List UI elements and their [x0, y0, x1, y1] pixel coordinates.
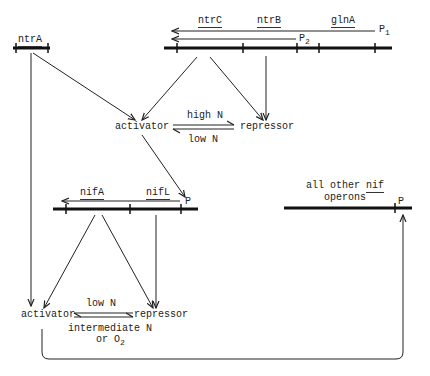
- nif-low-N-condition-label: low N: [86, 299, 116, 309]
- high-N-condition-label: high N: [187, 111, 223, 121]
- P1-subscript: 1: [385, 28, 390, 37]
- other-nif-line2: operons: [324, 193, 366, 203]
- glnA-ntrBC-dna-segment: [164, 43, 392, 53]
- ntrA-gene-label: ntrA: [18, 35, 42, 47]
- other-nif-operons-dna-segment: [284, 203, 412, 213]
- nifA-gene-label: nifA: [80, 188, 104, 200]
- nif-activator-label: activator: [21, 310, 75, 320]
- ntrA-to-ntr-activator-arrow: [33, 53, 135, 120]
- P1-promoter-label: P1: [379, 25, 390, 35]
- P2-subscript: 2: [305, 37, 310, 46]
- nifLA-dna-segment: [53, 204, 198, 214]
- ntr-repressor-label: repressor: [240, 122, 294, 132]
- oxygen-condition-label: or O2: [96, 335, 125, 345]
- intermediate-N-condition-label: intermediate N: [68, 324, 152, 334]
- other-nif-promoter-label: P: [398, 197, 404, 207]
- P2-promoter-label: P2: [299, 34, 310, 44]
- nif-ntr-regulation-diagram: ntrA ntrC ntrB glnA P1 P2 activator repr…: [0, 0, 430, 376]
- ntrB-gene-label: ntrB: [257, 16, 281, 28]
- nifL-gene-label: nifL: [146, 188, 170, 200]
- or-O-text: or O: [96, 334, 120, 345]
- ntr-activator-label: activator: [115, 122, 169, 132]
- other-nif-line1: all other: [306, 180, 360, 191]
- glnA-gene-label: glnA: [331, 16, 355, 28]
- nifLA-promoter-label: P: [185, 197, 191, 207]
- nif-repressor-label: repressor: [134, 310, 188, 320]
- ntrC-gene-label: ntrC: [198, 16, 222, 28]
- low-N-condition-label: low N: [188, 135, 218, 145]
- nif-italic-label: nif: [366, 180, 384, 193]
- other-nif-operons-label: all other nif operons: [290, 181, 400, 203]
- nifA-to-repressor-arrow: [102, 215, 153, 308]
- O2-subscript: 2: [120, 338, 125, 347]
- nifA-to-activator-arrow: [44, 215, 95, 308]
